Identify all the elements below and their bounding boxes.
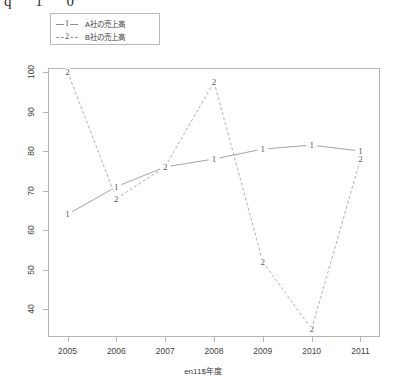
x-tick-mark (360, 337, 361, 342)
x-tick-mark (68, 337, 69, 342)
y-tick-mark (43, 309, 48, 310)
y-tick-mark (43, 230, 48, 231)
x-tick-mark (165, 337, 166, 342)
legend-glyph-2: 2 (64, 33, 70, 41)
chart-plot-region: 11111112222222 405060708090100 200520062… (0, 0, 405, 388)
legend-glyph-1: 1 (64, 20, 70, 28)
data-point-series2-2010: 2 (309, 325, 315, 334)
x-tick-mark (263, 337, 264, 342)
y-tick-label: 90 (26, 107, 36, 116)
data-point-series2-2009: 2 (260, 257, 266, 266)
x-tick-label: 2007 (156, 346, 175, 356)
x-axis-title: en11$年度 (184, 365, 222, 376)
x-tick-mark (214, 337, 215, 342)
plot-frame (48, 68, 380, 337)
y-tick-label: 50 (26, 265, 36, 274)
data-point-series2-2011: 2 (358, 154, 364, 163)
y-tick-label: 100 (26, 65, 36, 79)
x-tick-label: 2005 (58, 346, 77, 356)
x-tick-label: 2009 (253, 346, 272, 356)
data-point-series1-2010: 1 (309, 141, 315, 150)
x-tick-label: 2011 (351, 346, 369, 356)
y-tick-mark (43, 112, 48, 113)
data-point-series1-2006: 1 (114, 182, 120, 191)
x-tick-mark (312, 337, 313, 342)
x-tick-label: 2010 (302, 346, 321, 356)
data-point-series2-2008: 2 (211, 77, 217, 86)
data-point-series2-2007: 2 (162, 162, 168, 171)
y-tick-mark (43, 151, 48, 152)
y-tick-mark (43, 270, 48, 271)
data-point-series1-2009: 1 (260, 145, 266, 154)
x-tick-mark (116, 337, 117, 342)
y-tick-label: 70 (26, 186, 36, 195)
data-point-series2-2005: 2 (65, 67, 71, 76)
y-tick-label: 60 (26, 225, 36, 234)
x-tick-label: 2006 (107, 346, 126, 356)
y-tick-label: 80 (26, 146, 36, 155)
y-tick-mark (43, 72, 48, 73)
data-point-series1-2005: 1 (65, 210, 71, 219)
y-tick-mark (43, 191, 48, 192)
data-point-series2-2006: 2 (114, 194, 120, 203)
data-point-series1-2008: 1 (211, 154, 217, 163)
x-tick-label: 2008 (205, 346, 224, 356)
y-tick-label: 40 (26, 305, 36, 314)
